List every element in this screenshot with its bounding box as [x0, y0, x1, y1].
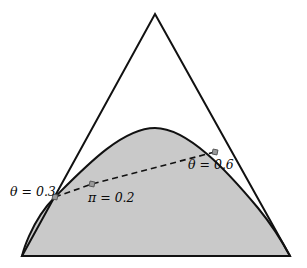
geometry-figure: θ = 0.3 π = 0.2 θ = 0.6: [0, 0, 307, 268]
shaded-dome-region: [22, 128, 290, 256]
marker-theta-0-6: [212, 149, 218, 155]
label-theta-right: θ = 0.6: [188, 157, 234, 172]
label-theta-left: θ = 0.3: [10, 184, 56, 199]
marker-pi-0-2: [89, 181, 95, 187]
figure-canvas: θ = 0.3 π = 0.2 θ = 0.6: [0, 0, 307, 268]
label-pi-center: π = 0.2: [87, 190, 135, 205]
